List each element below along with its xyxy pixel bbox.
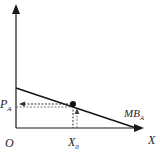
curve-label: MBA xyxy=(123,107,144,121)
mb-curve xyxy=(16,88,136,128)
origin-label: O xyxy=(5,136,14,150)
left-arrow-icon xyxy=(19,102,25,107)
marginal-benefit-diagram: PA O X0 MBA X xyxy=(0,0,160,154)
quantity-label: X0 xyxy=(67,135,79,151)
equilibrium-point xyxy=(70,101,76,107)
y-axis-arrow-icon xyxy=(12,4,20,14)
x-axis-label: X xyxy=(147,133,156,147)
price-label: PA xyxy=(0,97,12,113)
